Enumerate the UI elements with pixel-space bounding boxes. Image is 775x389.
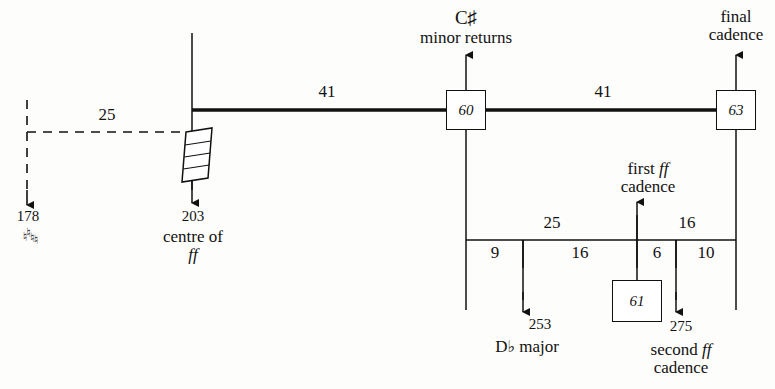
final-cadence-line1: final [709, 8, 764, 26]
first-ff-word: first [627, 159, 659, 178]
db-major-quality: major [515, 337, 559, 356]
annotation-final-cadence: final cadence [709, 8, 764, 45]
node-box-60-label: 60 [459, 102, 474, 119]
centre-of-line1: centre of [163, 228, 223, 246]
c-sharp-minor-line1: C♯ [420, 8, 512, 29]
annotation-db-major: D♭ major [495, 338, 559, 356]
lower-axis-lower-label-10: 10 [698, 244, 715, 262]
flat-sign-icon: ♭ [507, 337, 515, 356]
accidentals-cluster-naturals: ♮♮♮♮ [23, 228, 38, 243]
bar-number-203: 203 [182, 208, 205, 224]
second-ff-dynamic: ff [702, 340, 711, 359]
span-label-25-dashed: 25 [99, 106, 116, 124]
lower-axis-lower-label-9: 9 [491, 244, 500, 262]
annotation-centre-of-ff: centre of ff [163, 228, 223, 265]
span-label-41-left: 41 [319, 83, 336, 101]
lower-axis-upper-label-25: 25 [544, 214, 561, 232]
second-ff-word: second [651, 340, 702, 359]
node-box-61[interactable]: 61 [612, 280, 662, 322]
annotation-second-ff-cadence: second ff cadence [651, 341, 712, 378]
node-box-63[interactable]: 63 [716, 90, 756, 130]
lower-axis-upper-label-16: 16 [679, 214, 696, 232]
node-box-61-label: 61 [630, 293, 645, 310]
first-ff-dynamic: ff [659, 159, 668, 178]
first-ff-line2: cadence [621, 178, 676, 196]
lower-axis-lower-label-16: 16 [572, 244, 589, 262]
first-ff-line1: first ff [621, 160, 676, 178]
bar-number-178: 178 [17, 208, 40, 224]
hatched-block [182, 128, 212, 182]
natural-sign-4: ♮ [34, 232, 38, 247]
diagram-canvas: 60 63 61 25 41 41 C♯ minor returns final… [0, 0, 775, 389]
span-label-41-right: 41 [595, 83, 612, 101]
annotation-c-sharp-minor-returns: C♯ minor returns [420, 8, 512, 47]
lower-axis-lower-label-6: 6 [653, 244, 662, 262]
node-box-60[interactable]: 60 [446, 90, 486, 130]
db-major-letter: D [495, 337, 507, 356]
centre-of-line2: ff [163, 246, 223, 264]
annotation-first-ff-cadence: first ff cadence [621, 160, 676, 197]
c-sharp-minor-line2: minor returns [420, 29, 512, 47]
second-ff-line2: cadence [651, 359, 712, 377]
second-ff-line1: second ff [651, 341, 712, 359]
node-box-63-label: 63 [729, 102, 744, 119]
final-cadence-line2: cadence [709, 26, 764, 44]
bar-number-275: 275 [670, 318, 693, 334]
bar-number-253: 253 [529, 316, 552, 332]
